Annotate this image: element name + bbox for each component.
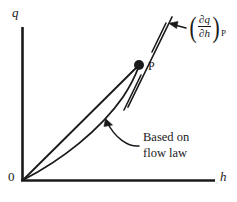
derivative-denominator: ∂h bbox=[198, 28, 211, 40]
open-paren: ( bbox=[189, 15, 196, 38]
flow-law-diagram: q h 0 P ( ∂q ∂h ) P Based on flow law bbox=[0, 0, 237, 202]
flow-law-note-line2: flow law bbox=[143, 146, 189, 162]
note-leader-arrowhead bbox=[104, 119, 113, 127]
close-paren: ) bbox=[212, 15, 219, 38]
flow-law-note-line1: Based on bbox=[143, 130, 189, 146]
point-P-marker bbox=[134, 60, 144, 70]
derivative-leader-arrowhead bbox=[169, 22, 178, 29]
flow-law-note: Based on flow law bbox=[143, 130, 189, 161]
y-axis-label: q bbox=[12, 6, 19, 19]
note-leader-arrow bbox=[107, 122, 139, 146]
tangent-slope-marker-upper bbox=[152, 23, 166, 52]
secant-line-origin-to-P bbox=[23, 65, 139, 180]
x-axis-label: h bbox=[220, 170, 227, 183]
partial-derivative-annotation: ( ∂q ∂h ) P bbox=[188, 14, 226, 39]
derivative-numerator: ∂q bbox=[198, 14, 211, 26]
derivative-subscript: P bbox=[221, 29, 226, 39]
point-P-label: P bbox=[148, 60, 155, 72]
origin-label: 0 bbox=[8, 170, 15, 183]
derivative-fraction: ∂q ∂h bbox=[198, 14, 211, 39]
